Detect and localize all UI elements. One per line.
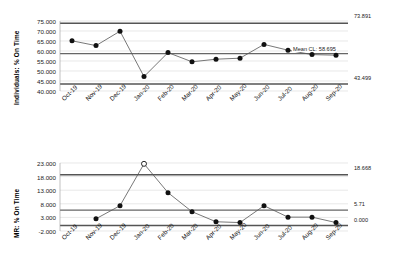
moving-range-chart-panel: MR: % On Time 23.00018.00013.0008.0003.0… [0,135,413,265]
y-tick-label: 8.000 [41,200,56,207]
data-point[interactable] [166,190,171,195]
individuals-lcl-label: 43.499 [354,75,371,81]
data-point[interactable] [310,215,315,220]
y-tick-label: 60.000 [37,48,56,55]
y-tick-label: 65.000 [37,38,56,45]
y-tick-label: 23.000 [37,160,56,167]
y-tick-label: 3.000 [41,214,56,221]
data-point-out-of-control[interactable] [142,161,147,166]
data-point[interactable] [262,203,267,208]
data-point[interactable] [286,48,291,53]
data-point[interactable] [190,59,195,64]
individuals-ucl-label: 73.891 [354,13,371,19]
data-point[interactable] [94,43,99,48]
y-tick-label: 40.000 [37,88,56,95]
data-point[interactable] [142,74,147,79]
control-chart-sheet: Individuals: % On Time 75.00070.00065.00… [0,0,413,265]
y-tick-label: 45.000 [37,78,56,85]
individuals-chart-panel: Individuals: % On Time 75.00070.00065.00… [0,0,413,135]
individuals-y-axis-title: Individuals: % On Time [13,30,20,105]
chart-svg [60,21,348,91]
y-tick-label: 50.000 [37,68,56,75]
data-point[interactable] [118,203,123,208]
moving-range-plot-area [60,163,348,231]
data-point[interactable] [334,53,339,58]
individuals-center-line-label: Mean CL: 58.695 [292,46,337,52]
series-line [96,164,336,223]
individuals-plot-area [60,21,348,91]
data-point[interactable] [310,52,315,57]
moving-range-y-axis-title: MR: % On Time [13,189,20,238]
y-tick-label: 55.000 [37,58,56,65]
chart-svg [60,163,348,231]
y-tick-label: 75.000 [37,18,56,25]
data-point[interactable] [286,215,291,220]
data-point[interactable] [238,56,243,61]
data-point[interactable] [166,50,171,55]
moving-range-ucl-label: 18.668 [354,165,371,171]
moving-range-lcl-label: 0.000 [354,217,368,223]
moving-range-x-tick-labels: Oct-19Nov-19Dec-19Jan-20Feb-20Mar-20Apr-… [0,234,413,265]
data-point[interactable] [70,38,75,43]
y-tick-label: 13.000 [37,187,56,194]
y-tick-label: 70.000 [37,28,56,35]
moving-range-center-line-label: 5.71 [354,201,365,207]
individuals-x-tick-labels: Oct-19Nov-19Dec-19Jan-20Feb-20Mar-20Apr-… [0,95,413,135]
data-point[interactable] [214,57,219,62]
data-point[interactable] [118,29,123,34]
data-point[interactable] [262,42,267,47]
y-tick-label: 18.000 [37,173,56,180]
data-point[interactable] [190,209,195,214]
